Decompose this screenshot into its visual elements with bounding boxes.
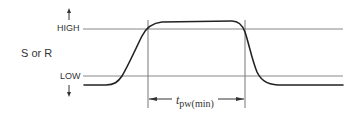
- down-arrow-icon: [67, 85, 71, 97]
- signal-name-label: S or R: [21, 47, 52, 59]
- pulse-width-subscript: pw(min): [179, 98, 213, 109]
- up-arrow-icon: [67, 8, 71, 20]
- low-level-label: LOW: [60, 71, 81, 81]
- pulse-width-label: tpw(min): [174, 93, 216, 108]
- pulse-width-timing-diagram: HIGH LOW S or R tpw(min): [0, 0, 363, 115]
- high-level-label: HIGH: [57, 23, 80, 33]
- pulse-waveform: [84, 21, 343, 85]
